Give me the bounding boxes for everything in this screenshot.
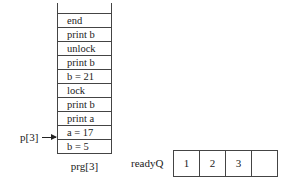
stack-open-top: [57, 3, 112, 13]
stack-cell-pointed: a = 17: [58, 126, 111, 140]
queue-cell: [252, 151, 277, 176]
ready-queue-label: readyQ: [131, 156, 163, 170]
program-pointer: p[3]: [20, 131, 56, 144]
stack-cell: unlock: [58, 42, 111, 56]
stack-cell: lock: [58, 84, 111, 98]
stack-cell: b = 5: [58, 140, 111, 154]
ready-queue: 1 2 3: [173, 150, 278, 177]
stack-cell: b = 21: [58, 70, 111, 84]
stack-cell: print b: [58, 56, 111, 70]
stack-caption: prg[3]: [62, 160, 107, 172]
arrow-right-icon: [42, 137, 56, 138]
queue-cell: 3: [226, 151, 252, 176]
queue-cell: 2: [200, 151, 226, 176]
queue-cell: 1: [174, 151, 200, 176]
stack-cell: print b: [58, 28, 111, 42]
stack-cell: print b: [58, 98, 111, 112]
stack-cell: end: [58, 14, 111, 28]
pointer-label: p[3]: [20, 131, 38, 144]
program-stack: end print b unlock print b b = 21 lock p…: [57, 13, 112, 154]
stack-cell: print a: [58, 112, 111, 126]
